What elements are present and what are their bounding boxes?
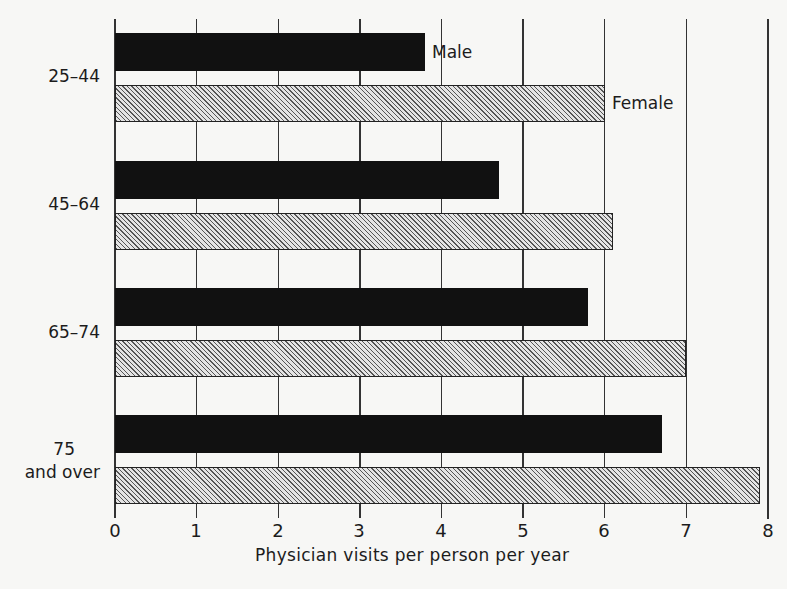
- bar-chart: 25–44 45–64 65–74 75 and over Male Femal…: [0, 0, 787, 589]
- bar-male-1: [115, 161, 499, 199]
- x-tick-2: 2: [263, 520, 293, 541]
- category-label-75-line1: 75: [53, 439, 75, 459]
- x-tick-6: 6: [589, 520, 619, 541]
- bar-male-0: [115, 33, 425, 71]
- gridline-8: [767, 19, 768, 519]
- x-tick-5: 5: [508, 520, 538, 541]
- x-tick-4: 4: [426, 520, 456, 541]
- bar-male-3: [115, 415, 662, 453]
- category-label-65-74: 65–74: [48, 322, 100, 342]
- x-axis-title: Physician visits per person per year: [255, 545, 569, 565]
- x-tick-7: 7: [671, 520, 701, 541]
- legend-male-label: Male: [432, 42, 472, 62]
- legend-female-label: Female: [612, 93, 673, 113]
- category-label-25-44: 25–44: [48, 66, 100, 86]
- x-tick-3: 3: [344, 520, 374, 541]
- category-label-75-line2: and over: [25, 462, 100, 482]
- bar-female-1: [115, 213, 613, 250]
- bar-female-0: [115, 85, 605, 122]
- bar-female-2: [115, 340, 686, 377]
- x-tick-1: 1: [181, 520, 211, 541]
- bar-male-2: [115, 288, 588, 326]
- gridline-7: [686, 19, 687, 518]
- category-label-45-64: 45–64: [48, 194, 100, 214]
- x-tick-0: 0: [100, 520, 130, 541]
- bar-female-3: [115, 467, 760, 504]
- x-tick-8: 8: [753, 520, 783, 541]
